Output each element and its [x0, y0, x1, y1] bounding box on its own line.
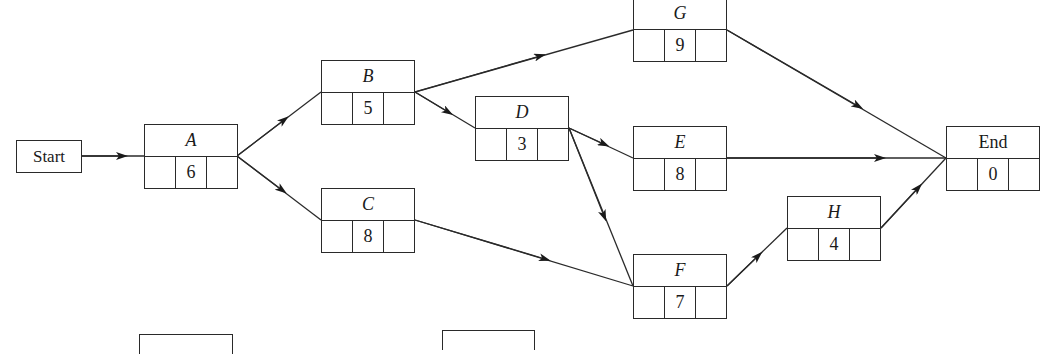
node-end: End 0 [946, 126, 1040, 191]
duration: 8 [664, 159, 696, 191]
duration: 6 [175, 157, 207, 189]
cell-right [696, 30, 726, 62]
cell-left [634, 287, 664, 319]
node-c: C 8 [321, 188, 415, 253]
cell-left [634, 159, 664, 191]
node-h: H 4 [787, 196, 881, 261]
partial-box-left [139, 334, 233, 354]
node-label: D [476, 97, 568, 129]
duration: 9 [664, 30, 696, 62]
node-e: E 8 [633, 126, 727, 191]
cell-left [322, 93, 352, 125]
cell-right [850, 229, 880, 261]
cell-left [788, 229, 818, 261]
start-node: Start [16, 140, 82, 173]
cell-right [1009, 159, 1039, 191]
node-g: G 9 [633, 0, 727, 62]
duration: 5 [352, 93, 384, 125]
cell-left [634, 30, 664, 62]
duration: 0 [977, 159, 1009, 191]
duration: 7 [664, 287, 696, 319]
node-f: F 7 [633, 254, 727, 319]
node-label: G [634, 0, 726, 30]
duration: 8 [352, 221, 384, 253]
duration: 4 [818, 229, 850, 261]
cell-left [476, 129, 506, 161]
node-label: F [634, 255, 726, 287]
node-label: B [322, 61, 414, 93]
cell-left [947, 159, 977, 191]
node-a: A 6 [144, 124, 238, 189]
node-label: E [634, 127, 726, 159]
node-d: D 3 [475, 96, 569, 161]
node-label: H [788, 197, 880, 229]
cell-right [384, 93, 414, 125]
node-label: End [947, 127, 1039, 159]
duration: 3 [506, 129, 538, 161]
start-label: Start [33, 147, 65, 167]
node-label: A [145, 125, 237, 157]
cell-left [145, 157, 175, 189]
cell-right [696, 287, 726, 319]
cell-left [322, 221, 352, 253]
node-label: C [322, 189, 414, 221]
cell-right [384, 221, 414, 253]
partial-box-right [442, 330, 535, 350]
node-b: B 5 [321, 60, 415, 125]
cell-right [538, 129, 568, 161]
cell-right [696, 159, 726, 191]
cell-right [207, 157, 237, 189]
